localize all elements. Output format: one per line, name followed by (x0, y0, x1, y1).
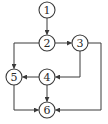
node-3-label: 3 (77, 37, 84, 50)
edges (14, 18, 101, 110)
node-2-label: 2 (44, 37, 51, 50)
node-1: 1 (39, 2, 55, 18)
node-2: 2 (39, 35, 55, 51)
edge-3-to-4 (56, 51, 81, 77)
node-6: 6 (39, 102, 55, 118)
node-1-label: 1 (44, 4, 51, 17)
edge-2-to-5 (14, 43, 39, 69)
flow-graph: 1 2 3 4 5 6 (0, 0, 108, 124)
node-6-label: 6 (44, 104, 51, 117)
node-5: 5 (6, 69, 22, 85)
node-4: 4 (39, 69, 55, 85)
edge-5-to-6 (14, 85, 39, 110)
node-3: 3 (72, 35, 88, 51)
node-5-label: 5 (11, 71, 18, 84)
node-4-label: 4 (44, 71, 51, 84)
